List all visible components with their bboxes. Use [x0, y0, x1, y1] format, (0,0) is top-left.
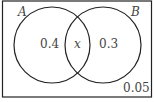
set-b-label: B — [130, 5, 140, 19]
b-only-value: 0.3 — [99, 37, 118, 51]
set-a-label: A — [17, 5, 27, 19]
a-only-value: 0.4 — [40, 37, 59, 51]
intersection-label: x — [74, 37, 81, 51]
venn-svg: A B 0.4 x 0.3 0.05 — [0, 0, 154, 102]
venn-diagram: A B 0.4 x 0.3 0.05 — [0, 0, 154, 102]
outside-value: 0.05 — [123, 81, 150, 95]
